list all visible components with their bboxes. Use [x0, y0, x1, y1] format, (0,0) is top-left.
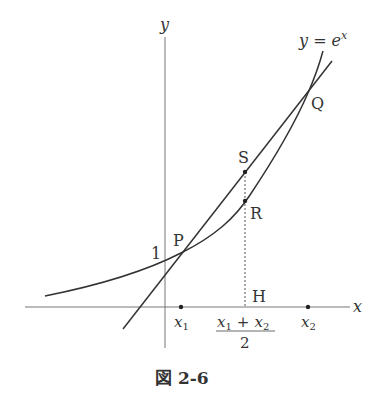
- tick-label-x1: x1: [174, 313, 189, 332]
- label-P: P: [173, 231, 184, 250]
- tick-label-x2: x2: [301, 313, 316, 332]
- label-S: S: [238, 148, 249, 167]
- tick-label-midpoint-numerator: x1+x2: [217, 313, 269, 332]
- point-x2: [306, 305, 310, 309]
- point-x1: [179, 305, 183, 309]
- secant-line-PQ: [123, 61, 332, 329]
- curve-label: y = ex: [298, 29, 348, 50]
- point-S: [243, 170, 247, 174]
- label-R: R: [250, 204, 263, 223]
- label-H: H: [252, 287, 266, 306]
- label-Q: Q: [311, 94, 324, 113]
- x-axis-label: x: [353, 297, 362, 316]
- figure-caption: 図 2-6: [155, 368, 209, 388]
- tick-label-midpoint-denominator: 2: [240, 334, 250, 352]
- exponential-chord-diagram: y x y = ex Q S R P 1 H x1 x2 x1+x2 2 図 2…: [0, 0, 390, 403]
- y-axis-label: y: [159, 15, 170, 34]
- exponential-curve: [45, 51, 323, 296]
- label-y-intercept-1: 1: [151, 244, 161, 263]
- point-R: [243, 199, 247, 203]
